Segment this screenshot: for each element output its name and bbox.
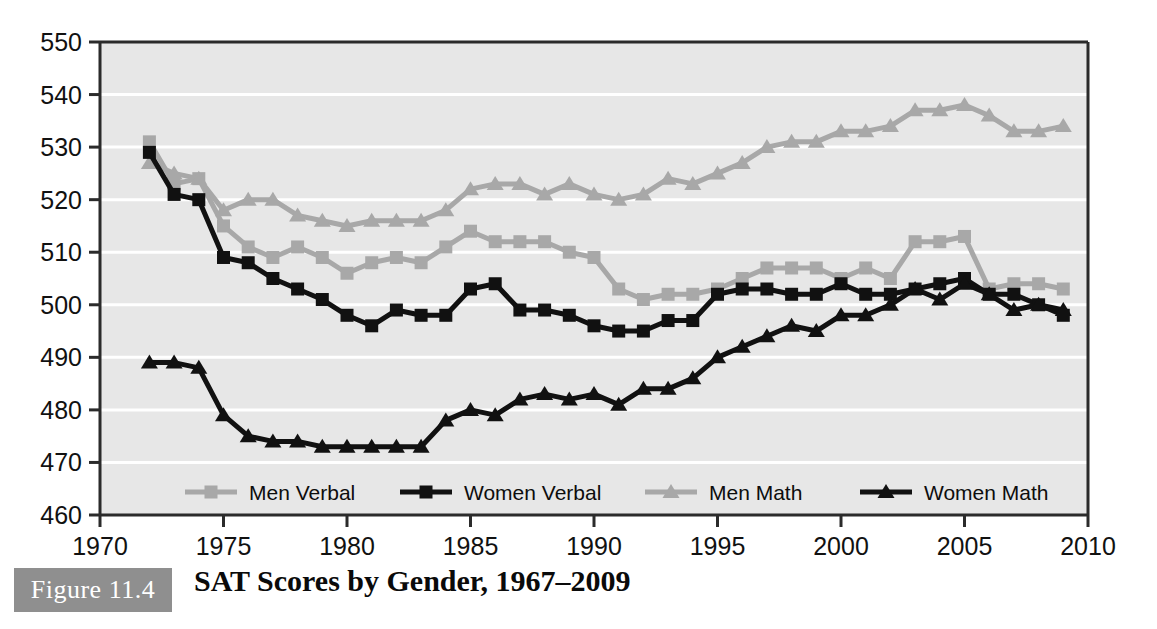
x-tick-label: 1970 bbox=[72, 532, 128, 560]
legend-label: Women Math bbox=[924, 481, 1049, 504]
y-tick-label: 550 bbox=[40, 28, 82, 56]
y-tick-label: 510 bbox=[40, 238, 82, 266]
y-tick-label: 460 bbox=[40, 501, 82, 529]
legend-label: Women Verbal bbox=[464, 481, 601, 504]
x-tick-label: 1995 bbox=[690, 532, 746, 560]
y-tick-label: 520 bbox=[40, 186, 82, 214]
figure-title: SAT Scores by Gender, 1967–2009 bbox=[194, 564, 630, 598]
x-tick-label: 1990 bbox=[566, 532, 622, 560]
y-tick-label: 540 bbox=[40, 81, 82, 109]
figure-number-label: Figure 11.4 bbox=[31, 575, 155, 605]
y-tick-label: 480 bbox=[40, 396, 82, 424]
figure-container: 4604704804905005105205305405501970197519… bbox=[0, 0, 1157, 629]
y-tick-label: 530 bbox=[40, 133, 82, 161]
x-tick-label: 2000 bbox=[813, 532, 869, 560]
figure-caption-row: Figure 11.4 SAT Scores by Gender, 1967–2… bbox=[0, 562, 1157, 629]
x-tick-label: 2010 bbox=[1060, 532, 1116, 560]
x-tick-label: 1975 bbox=[196, 532, 252, 560]
x-tick-label: 1980 bbox=[319, 532, 375, 560]
y-tick-label: 500 bbox=[40, 291, 82, 319]
legend-label: Men Math bbox=[709, 481, 802, 504]
y-tick-label: 470 bbox=[40, 448, 82, 476]
legend-label: Men Verbal bbox=[249, 481, 355, 504]
sat-scores-line-chart: 4604704804905005105205305405501970197519… bbox=[0, 0, 1157, 560]
figure-number-badge: Figure 11.4 bbox=[14, 568, 172, 612]
x-tick-label: 1985 bbox=[443, 532, 499, 560]
chart-area: 4604704804905005105205305405501970197519… bbox=[0, 0, 1157, 560]
x-tick-label: 2005 bbox=[937, 532, 993, 560]
y-tick-label: 490 bbox=[40, 343, 82, 371]
